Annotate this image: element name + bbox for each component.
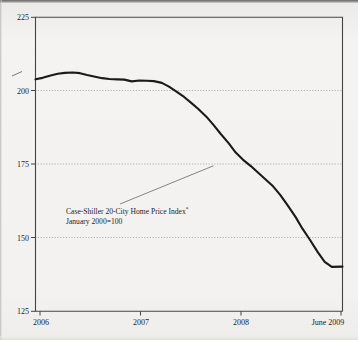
x-tick-label-2006: 2006 bbox=[33, 318, 49, 327]
y-tick-label-125: 125 bbox=[17, 307, 29, 316]
y-tick-label-225: 225 bbox=[17, 13, 29, 22]
callout-leader-line bbox=[120, 166, 213, 204]
x-tick-marks bbox=[40, 311, 341, 315]
y-tick-labels: 225 200 175 150 125 bbox=[17, 13, 29, 316]
callout-line-1: Case-Shiller 20-City Home Price Index* bbox=[66, 206, 189, 216]
x-tick-label-june-2009: June 2009 bbox=[312, 318, 345, 327]
callout-line-1-text: Case-Shiller 20-City Home Price Index bbox=[66, 207, 186, 216]
x-tick-labels: 2006 2007 2008 June 2009 bbox=[33, 318, 344, 327]
y-tick-label-150: 150 bbox=[17, 234, 29, 243]
line-chart-plot: 225 200 175 150 125 2006 2007 2008 June … bbox=[0, 0, 358, 340]
scan-artifact-mark bbox=[12, 72, 22, 77]
callout-line-2: January 2000=100 bbox=[66, 217, 123, 226]
y-tick-label-175: 175 bbox=[17, 160, 29, 169]
series-callout: Case-Shiller 20-City Home Price Index* J… bbox=[66, 206, 189, 226]
x-tick-label-2008: 2008 bbox=[233, 318, 249, 327]
y-tick-label-200: 200 bbox=[17, 87, 29, 96]
callout-superscript: * bbox=[186, 206, 189, 212]
y-tick-marks bbox=[31, 17, 36, 311]
x-tick-label-2007: 2007 bbox=[133, 318, 149, 327]
chart-figure: 225 200 175 150 125 2006 2007 2008 June … bbox=[0, 0, 358, 340]
